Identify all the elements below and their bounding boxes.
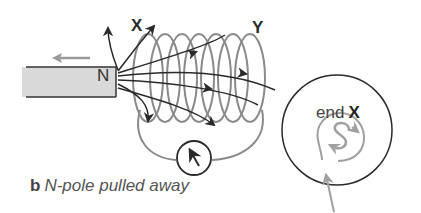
caption: bN-pole pulled away <box>30 176 189 196</box>
end-view-label: endX <box>316 103 360 123</box>
caption-text: N-pole pulled away <box>44 176 189 195</box>
magnet-pole-label: N <box>97 66 109 86</box>
coil-end-y-label: Y <box>252 18 263 38</box>
motion-arrow-icon <box>52 53 90 63</box>
current-arrow-icon <box>326 175 334 212</box>
coil-end-x-label: X <box>131 16 142 36</box>
s-pole-glyph <box>335 123 349 148</box>
galvanometer <box>177 141 211 175</box>
caption-part: b <box>30 176 40 195</box>
end-view-name: X <box>348 103 359 122</box>
end-view <box>282 75 392 212</box>
end-view-prefix: end <box>316 103 344 122</box>
